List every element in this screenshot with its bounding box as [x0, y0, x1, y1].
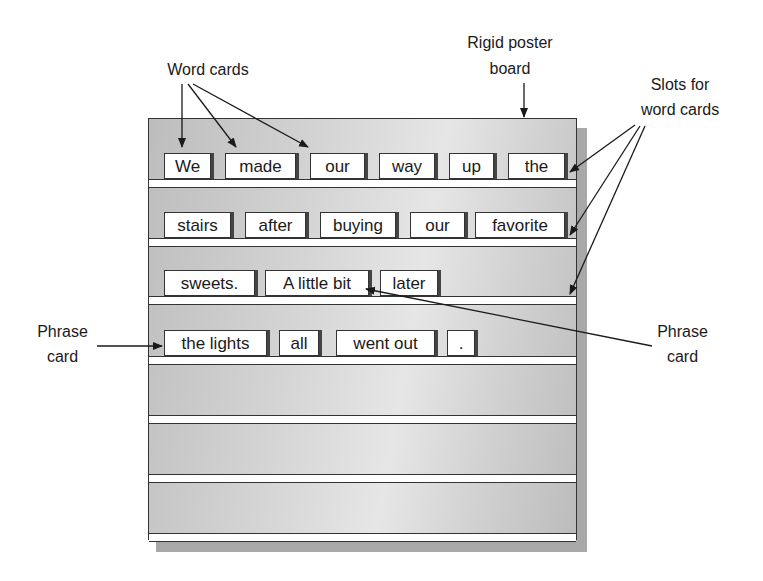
arrow-icon	[570, 126, 645, 294]
arrow-icon	[188, 84, 236, 147]
arrow-icon	[570, 126, 640, 235]
annotation-arrows	[0, 0, 763, 581]
arrow-icon	[193, 84, 308, 147]
arrow-icon	[366, 289, 652, 346]
